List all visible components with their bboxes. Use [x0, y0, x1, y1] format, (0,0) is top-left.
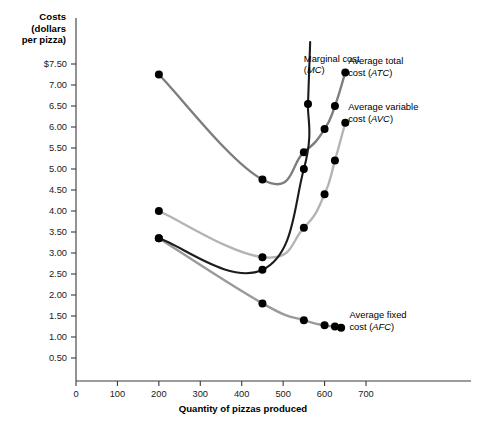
curve-label-atc: Average total: [348, 55, 403, 66]
x-tick-label: 100: [110, 389, 126, 399]
x-axis-title: Quantity of pizzas produced: [179, 403, 308, 414]
y-tick-label: 0.50: [49, 353, 67, 363]
x-tick-label: 0: [73, 389, 78, 399]
data-point-avc: [300, 224, 308, 232]
data-point-avc: [258, 253, 266, 261]
y-tick-label: 2.00: [49, 290, 67, 300]
x-tick-label: 700: [358, 389, 374, 399]
y-tick-label: $7.50: [44, 59, 67, 69]
y-tick-label: 4.00: [49, 206, 67, 216]
x-tick-label: 600: [317, 389, 333, 399]
y-axis-title-line: Costs: [39, 11, 66, 22]
y-tick-label: 5.00: [49, 164, 67, 174]
y-tick-label: 7.00: [49, 80, 67, 90]
curve-label-avc: Average variable: [348, 101, 418, 112]
data-point-afc: [258, 299, 266, 307]
curve-avc: [159, 123, 345, 258]
data-point-avc: [155, 207, 163, 215]
data-point-atc: [155, 71, 163, 79]
y-tick-label: 6.00: [49, 122, 67, 132]
y-tick-label: 3.00: [49, 248, 67, 258]
data-point-atc: [331, 102, 339, 110]
data-point-atc: [321, 125, 329, 133]
curve-atc: [159, 72, 345, 184]
y-tick-label: 5.50: [49, 143, 67, 153]
data-point-mc: [300, 165, 308, 173]
y-axis-title-line: per pizza): [22, 34, 66, 45]
data-point-atc: [258, 176, 266, 184]
x-tick-label: 400: [234, 389, 250, 399]
y-tick-label: 2.50: [49, 269, 67, 279]
data-point-avc: [331, 157, 339, 165]
data-point-mc: [304, 100, 312, 108]
curve-label-afc: cost (AFC): [349, 321, 394, 332]
y-tick-label: 1.00: [49, 332, 67, 342]
y-tick-label: 1.50: [49, 311, 67, 321]
data-point-afc: [300, 316, 308, 324]
x-tick-label: 500: [275, 389, 291, 399]
series-atc: [155, 68, 349, 184]
x-tick-label: 300: [193, 389, 209, 399]
data-point-mc: [258, 266, 266, 274]
curve-label-avc: cost (AVC): [348, 113, 393, 124]
data-point-avc: [321, 190, 329, 198]
y-tick-label: 3.50: [49, 227, 67, 237]
y-tick-label: 6.50: [49, 101, 67, 111]
data-point-afc: [337, 324, 345, 332]
curve-label-afc: Average fixed: [349, 309, 406, 320]
cost-curves-chart: 0.501.001.502.002.503.003.504.004.505.00…: [0, 0, 481, 443]
x-tick-label: 200: [151, 389, 167, 399]
data-point-afc: [321, 321, 329, 329]
y-tick-label: 4.50: [49, 185, 67, 195]
curve-label-mc: (MC): [304, 64, 325, 75]
data-point-mc: [155, 234, 163, 242]
y-axis-title-line: (dollars: [31, 23, 66, 34]
series-avc: [155, 119, 349, 261]
chart-svg: 0.501.001.502.002.503.003.504.004.505.00…: [0, 0, 481, 443]
curve-label-atc: cost (ATC): [348, 67, 392, 78]
